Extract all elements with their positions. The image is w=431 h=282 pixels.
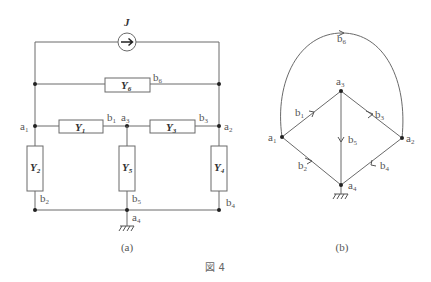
caption-b: (b): [336, 241, 349, 254]
admittance-y4: Y4: [211, 146, 227, 191]
ground-icon: [119, 226, 134, 231]
figure-canvas: J Y6 b6 Y1 Y3 b1 b3 a1 a3 a2: [0, 0, 431, 282]
branch-label-b1: b1: [107, 111, 117, 125]
edge-label-b1: b1: [295, 106, 305, 120]
source-label: J: [123, 16, 130, 28]
branch-label-b3: b3: [199, 111, 209, 125]
admittance-y5: Y5: [119, 146, 135, 191]
node-label-a3: a3: [121, 111, 130, 125]
arrow-icon: [366, 111, 373, 118]
graph-node-a3: [339, 89, 343, 93]
junction-dot: [217, 82, 221, 86]
edge-label-b2: b2: [298, 159, 308, 173]
node-label-a4: a4: [132, 211, 141, 225]
edge-b1: [282, 91, 341, 137]
graph-node-label-a3: a3: [336, 75, 345, 89]
graph-node-a4: [339, 183, 343, 187]
graph-b: b6 b1 b3 b5 b2 b4 a1 a3 a2 a4 (b): [268, 31, 415, 255]
branch-label-b6: b6: [153, 71, 163, 85]
graph-node-label-a4: a4: [348, 179, 357, 193]
junction-dot: [217, 208, 221, 212]
branch-label-b2: b2: [40, 192, 50, 206]
branch-label-b5: b5: [132, 192, 142, 206]
node-label-a1: a1: [20, 120, 29, 134]
junction-dot: [33, 82, 37, 86]
admittance-y2: Y2: [27, 146, 43, 191]
edge-label-b4: b4: [380, 159, 390, 173]
caption-a: (a): [121, 241, 134, 254]
current-source-j: J: [118, 16, 136, 51]
graph-node-label-a2: a2: [406, 132, 415, 146]
edge-label-b3: b3: [375, 108, 385, 122]
admittance-y6: Y6: [105, 78, 150, 93]
ground-icon: [333, 194, 348, 199]
graph-node-label-a1: a1: [268, 131, 277, 145]
node-label-a2: a2: [224, 120, 233, 134]
arrow-icon: [371, 160, 376, 166]
figure-caption: 図 4: [205, 262, 225, 273]
node-a2: [217, 124, 221, 128]
node-a4: [125, 208, 129, 212]
node-a1: [33, 124, 37, 128]
branch-label-b4: b4: [226, 196, 236, 210]
circuit-a: J Y6 b6 Y1 Y3 b1 b3 a1 a3 a2: [20, 16, 236, 254]
edge-label-b6: b6: [337, 32, 347, 46]
junction-dot: [33, 208, 37, 212]
graph-node-a2: [400, 136, 404, 140]
admittance-y3: Y3: [150, 120, 195, 135]
admittance-y1: Y1: [59, 120, 103, 135]
edge-b3: [341, 91, 402, 138]
graph-node-a1: [280, 135, 284, 139]
edge-label-b5: b5: [348, 133, 358, 147]
